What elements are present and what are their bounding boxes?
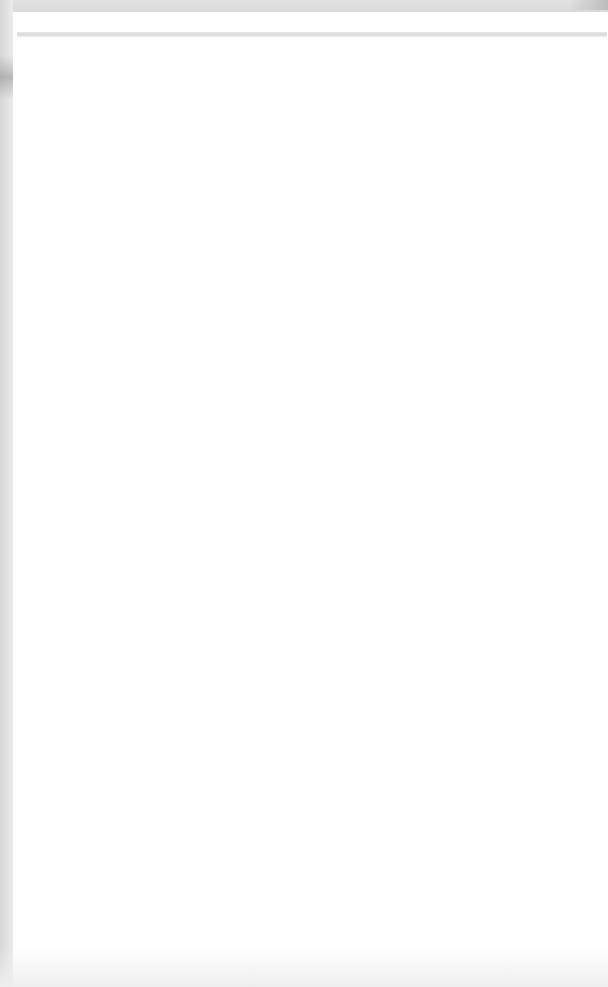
edge-shadow: [0, 55, 13, 100]
faint-vertical-mark: [446, 460, 454, 530]
header-rule: [17, 32, 607, 37]
top-bar: [13, 0, 608, 12]
top-bar-corner: [568, 0, 608, 10]
document-page: [13, 12, 608, 987]
bottom-shadow: [0, 947, 608, 987]
page-left-edge: [0, 0, 13, 987]
faint-vertical-mark: [441, 320, 449, 405]
